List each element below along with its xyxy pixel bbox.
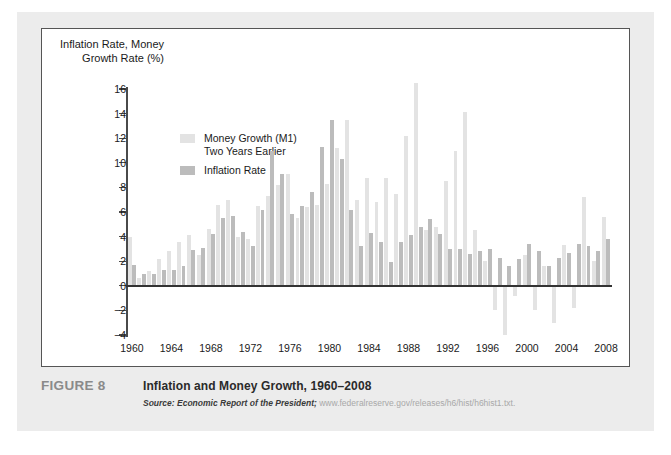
bar xyxy=(542,266,546,286)
zero-baseline xyxy=(126,285,612,287)
bar xyxy=(296,218,300,286)
bar xyxy=(488,249,492,286)
x-tick-label: 2008 xyxy=(586,342,626,354)
bar xyxy=(587,246,591,285)
x-tick-label: 1976 xyxy=(270,342,310,354)
x-tick-label: 1988 xyxy=(389,342,429,354)
y-tick-label-wrap: 2 xyxy=(78,256,126,266)
y-tick-label: 10 xyxy=(92,158,126,168)
bar xyxy=(414,83,418,286)
bar xyxy=(182,266,186,286)
y-tick-label: 14 xyxy=(92,109,126,119)
bar xyxy=(448,249,452,286)
bar xyxy=(498,258,502,286)
bar xyxy=(473,230,477,285)
bar xyxy=(315,205,319,286)
caption-heading-row: FIGURE 8 Inflation and Money Growth, 196… xyxy=(41,378,641,393)
bar xyxy=(434,227,438,286)
y-tick-label: 6 xyxy=(92,207,126,217)
bar xyxy=(468,254,472,286)
source-publication: Economic Report of the President; xyxy=(177,398,317,408)
bar xyxy=(172,270,176,286)
bar xyxy=(444,181,448,286)
bar xyxy=(355,200,359,286)
bar xyxy=(428,219,432,285)
figure-caption: FIGURE 8 Inflation and Money Growth, 196… xyxy=(41,378,641,408)
bar xyxy=(270,151,274,286)
bar xyxy=(359,246,363,285)
y-tick-label-wrap: 10 xyxy=(78,158,126,168)
bar xyxy=(167,251,171,285)
bar xyxy=(463,112,467,285)
bar xyxy=(552,286,556,323)
figure-number: FIGURE 8 xyxy=(41,378,143,393)
bar xyxy=(251,246,255,285)
y-tick-label-wrap: 0 xyxy=(78,281,126,291)
x-tick-label: 1960 xyxy=(112,342,152,354)
bar xyxy=(424,230,428,285)
x-tick-label: 1992 xyxy=(428,342,468,354)
figure-page: Inflation Rate, Money Growth Rate (%) Mo… xyxy=(0,0,671,455)
y-tick-label: −2 xyxy=(92,305,126,315)
bar xyxy=(547,266,551,286)
bar xyxy=(241,232,245,286)
y-tick-label: 4 xyxy=(92,232,126,242)
bars-layer xyxy=(127,89,611,335)
x-tick-label: 2004 xyxy=(547,342,587,354)
y-tick-label: 8 xyxy=(92,182,126,192)
bar xyxy=(582,197,586,286)
bar xyxy=(567,253,571,286)
bar xyxy=(221,218,225,286)
bar xyxy=(177,242,181,286)
bar xyxy=(266,196,270,286)
x-tick-label: 2000 xyxy=(507,342,547,354)
bar xyxy=(399,242,403,286)
bar xyxy=(404,136,408,286)
bar xyxy=(523,255,527,286)
bar xyxy=(478,251,482,285)
bar xyxy=(290,214,294,285)
caption-source-line: Source: Economic Report of the President… xyxy=(143,398,641,408)
y-tick-label: −4 xyxy=(92,330,126,340)
bar xyxy=(236,237,240,286)
y-tick-label: 0 xyxy=(92,281,126,291)
bar xyxy=(191,250,195,286)
y-tick-label-wrap: 16 xyxy=(78,84,126,94)
bar xyxy=(162,270,166,286)
y-tick-label-wrap: −2 xyxy=(78,305,126,315)
bar xyxy=(280,174,284,286)
bar xyxy=(211,234,215,286)
bar xyxy=(132,265,136,286)
bar xyxy=(261,210,265,286)
bar xyxy=(320,147,324,286)
y-tick-label: 2 xyxy=(92,256,126,266)
bar xyxy=(276,185,280,286)
y-tick-label-wrap: −4 xyxy=(78,330,126,340)
bar xyxy=(286,174,290,286)
bar xyxy=(389,262,393,285)
bar xyxy=(527,244,531,286)
y-tick-label-wrap: 8 xyxy=(78,182,126,192)
bar xyxy=(507,266,511,286)
y-tick-label-wrap: 6 xyxy=(78,207,126,217)
y-axis-title: Inflation Rate, Money Growth Rate (%) xyxy=(56,38,164,65)
bar xyxy=(226,200,230,286)
bar xyxy=(409,235,413,285)
bar xyxy=(325,184,329,286)
bar xyxy=(157,259,161,286)
bar xyxy=(300,206,304,286)
bar xyxy=(503,286,507,335)
bar xyxy=(147,271,151,286)
bar xyxy=(365,178,369,286)
bar xyxy=(201,248,205,286)
y-tick-label-wrap: 14 xyxy=(78,109,126,119)
bar xyxy=(330,120,334,286)
bar xyxy=(458,249,462,286)
bar xyxy=(369,233,373,286)
bar xyxy=(533,286,537,311)
bar xyxy=(187,235,191,285)
bar xyxy=(197,255,201,286)
bar xyxy=(572,286,576,308)
bar xyxy=(128,237,132,286)
bar xyxy=(513,286,517,296)
